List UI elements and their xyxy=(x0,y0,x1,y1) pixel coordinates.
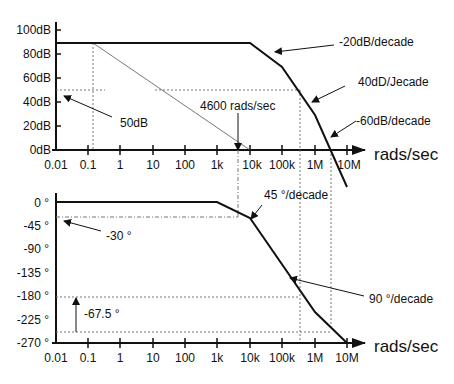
margin-label: -67.5 ° xyxy=(84,307,120,321)
y-tick-label: 80dB xyxy=(23,47,51,61)
phase-curve xyxy=(56,202,347,343)
phase-plot: 0 ° -45 ° -90 ° -135 ° -180 ° -225 ° -27… xyxy=(17,150,439,365)
offset-label: -30 ° xyxy=(106,229,132,243)
y-tick-label: -135 ° xyxy=(17,266,49,280)
x-tick-label: 10k xyxy=(240,351,260,365)
slope-90-label: 90 °/decade xyxy=(369,292,434,306)
y-tick-label: 40dB xyxy=(23,95,51,109)
reference-slope-line xyxy=(93,43,250,150)
gain-label: 50dB xyxy=(120,116,148,130)
x-axis-title: rads/sec xyxy=(374,145,439,164)
y-tick-label: -180 ° xyxy=(17,289,49,303)
x-axis-title: rads/sec xyxy=(374,337,439,356)
crossover-label: 4600 rads/sec xyxy=(200,99,275,113)
slope-60-label: -60dB/decade xyxy=(356,114,431,128)
slope-40-label: 40dD/Jecade xyxy=(358,75,429,89)
y-tick-label: -45 ° xyxy=(24,219,50,233)
x-tick-label: 0.1 xyxy=(80,351,97,365)
x-tick-label: 1 xyxy=(117,351,124,365)
x-tick-label: 0.01 xyxy=(44,351,68,365)
x-tick-label: 10M xyxy=(335,351,358,365)
y-tick-label: -270 ° xyxy=(17,336,49,350)
slope-45-label: 45 °/decade xyxy=(264,188,329,202)
y-tick-label: -225 ° xyxy=(17,313,49,327)
x-tick-label: 1k xyxy=(211,351,225,365)
y-tick-label: 20dB xyxy=(23,119,51,133)
magnitude-curve xyxy=(56,43,347,187)
x-tick-label: 100 xyxy=(175,351,195,365)
x-tick-label: 0.01 xyxy=(44,158,68,172)
x-tick-label: 1 xyxy=(117,158,124,172)
y-tick-label: 60dB xyxy=(23,71,51,85)
y-tick-label: 100dB xyxy=(16,23,51,37)
x-tick-label: 100 xyxy=(175,158,195,172)
x-tick-label: 10 xyxy=(146,158,160,172)
x-tick-label: 0.1 xyxy=(80,158,97,172)
x-tick-label: 100k xyxy=(269,158,296,172)
x-tick-label: 10k xyxy=(242,158,262,172)
x-tick-label: 10 xyxy=(146,351,160,365)
y-tick-label: 0 ° xyxy=(34,196,49,210)
y-tick-label: 0dB xyxy=(30,143,51,157)
bode-diagram: 100dB 80dB 60dB 40dB 20dB 0dB 0.01 0.1 1… xyxy=(0,0,454,384)
slope-20-label: -20dB/decade xyxy=(339,35,414,49)
y-tick-label: -90 ° xyxy=(24,242,50,256)
x-tick-label: 1k xyxy=(211,158,225,172)
x-tick-label: 1M xyxy=(307,158,324,172)
x-tick-label: 10M xyxy=(337,158,360,172)
x-tick-label: 100k xyxy=(269,351,296,365)
x-tick-label: 1M xyxy=(307,351,324,365)
